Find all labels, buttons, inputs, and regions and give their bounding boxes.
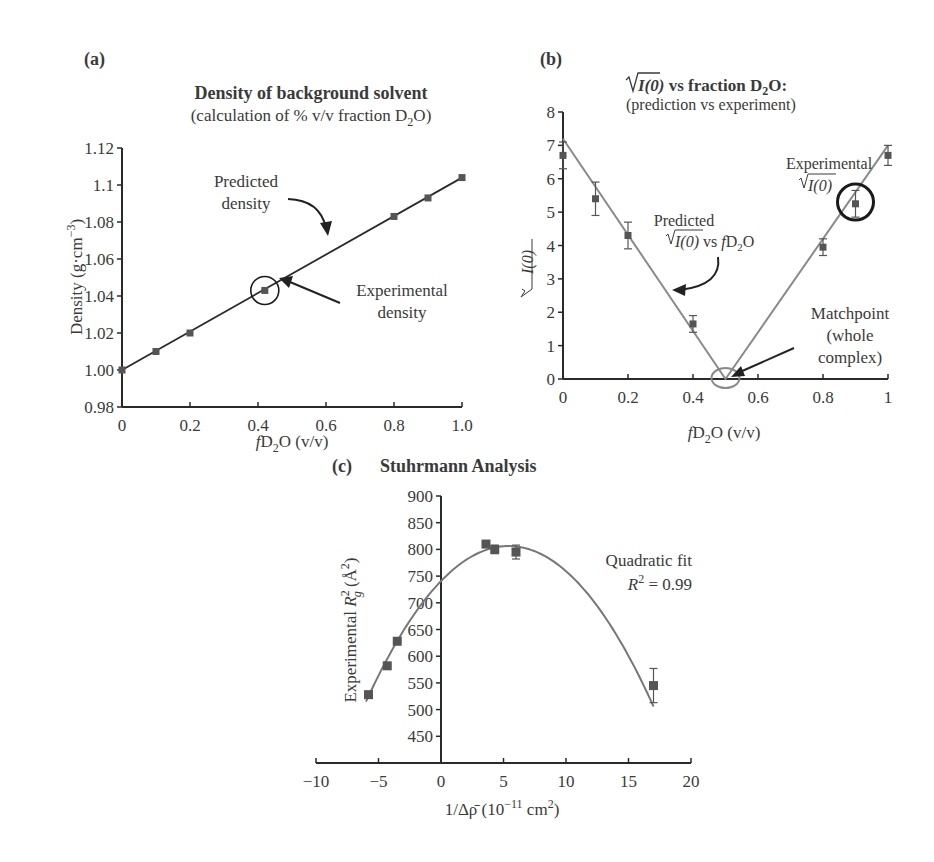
panel-b-x-axis-label: fD2O (v/v) — [688, 423, 761, 446]
panel-b-y-axis-label: I(0) — [519, 239, 537, 297]
svg-text:Predicted: Predicted — [654, 212, 714, 229]
panel-c-x-axis-label: 1/Δρ̄ (10−11 cm2) — [445, 797, 560, 819]
data-point-marker — [391, 213, 398, 220]
data-point-marker — [649, 681, 658, 690]
svg-text:I(0) vs fD2O: I(0) vs fD2O — [674, 233, 754, 253]
x-tick-label: 0.8 — [383, 416, 404, 435]
panel-b-subtitle: (prediction vs experiment) — [626, 96, 796, 114]
x-tick-label: 0 — [559, 388, 568, 407]
data-point-marker — [690, 320, 697, 327]
annotation-experimental-sqrt-i0: Experimental I(0) — [786, 155, 873, 195]
data-point-marker — [459, 174, 466, 181]
data-point-marker — [187, 330, 194, 337]
y-tick-label: 0 — [547, 370, 556, 389]
annotation-predicted-density: Predicteddensity — [214, 172, 279, 213]
x-tick-label: 0.4 — [682, 388, 704, 407]
y-tick-label: 500 — [408, 701, 434, 720]
y-tick-label: 1.06 — [84, 250, 114, 269]
y-tick-label: 6 — [547, 170, 556, 189]
panel-a-title: Density of background solvent — [194, 83, 427, 103]
data-point-marker — [820, 244, 827, 251]
y-tick-label: 1.1 — [93, 176, 114, 195]
x-tick-label: 0.8 — [812, 388, 833, 407]
annotation-predicted-sqrt-i0: Predicted I(0) vs fD2O — [654, 212, 755, 253]
y-tick-label: 1.00 — [84, 361, 114, 380]
curved-arrow-icon — [288, 199, 326, 228]
data-point-marker — [852, 200, 859, 207]
svg-text:I(0) vs fraction D2O:: I(0) vs fraction D2O: — [637, 76, 787, 98]
y-tick-label: 1.04 — [84, 287, 114, 306]
arrow-line-icon — [290, 282, 340, 303]
annotation-experimental-density: Experimentaldensity — [356, 281, 448, 322]
x-tick-label: 0 — [118, 416, 127, 435]
y-tick-label: 550 — [408, 674, 434, 693]
data-point-marker — [383, 661, 392, 670]
y-tick-label: 800 — [408, 540, 434, 559]
panel-a-subtitle: (calculation of % v/v fraction D2O) — [191, 106, 432, 129]
figure: (a) Density of background solvent (calcu… — [0, 0, 934, 862]
x-tick-label: 5 — [499, 772, 508, 791]
annotation-r-squared: R2 = 0.99 — [627, 572, 692, 594]
panel-c-axes: −10−505101520450500550600650700750800850… — [303, 487, 700, 791]
data-point-marker — [261, 287, 268, 294]
arrowhead-icon — [320, 221, 332, 236]
y-tick-label: 5 — [547, 203, 556, 222]
panel-a-plot-area — [119, 174, 466, 373]
data-point-marker — [425, 194, 432, 201]
panel-b-label: (b) — [540, 49, 562, 70]
x-tick-label: 20 — [683, 772, 700, 791]
y-tick-label: 2 — [547, 303, 556, 322]
arrow-line-icon — [740, 348, 794, 372]
panel-a-label: (a) — [84, 49, 105, 70]
panel-b-title: I(0) vs fraction D2O: — [626, 73, 787, 98]
data-point-marker — [625, 232, 632, 239]
arrowhead-icon — [672, 284, 686, 296]
data-point-marker — [885, 152, 892, 159]
panel-a-x-axis-label: fD2O (v/v) — [256, 432, 329, 455]
x-tick-label: −10 — [303, 772, 330, 791]
data-point-marker — [364, 690, 373, 699]
y-tick-label: 650 — [408, 621, 434, 640]
y-tick-label: 7 — [547, 136, 556, 155]
panel-c-label: (c) — [332, 456, 352, 477]
svg-text:I(0): I(0) — [807, 177, 832, 195]
x-tick-label: 0.2 — [179, 416, 200, 435]
panel-a-y-axis-label: Density (g·cm−3) — [64, 219, 86, 335]
x-tick-label: 0 — [437, 772, 446, 791]
panel-b-intensity-chart: (b) I(0) vs fraction D2O: (prediction vs… — [519, 49, 892, 446]
y-tick-label: 1 — [547, 337, 556, 356]
y-tick-label: 750 — [408, 567, 434, 586]
svg-text:Experimental: Experimental — [786, 155, 873, 173]
y-tick-label: 1.12 — [84, 139, 114, 158]
data-point-marker — [119, 367, 126, 374]
annotation-matchpoint: Matchpoint(wholecomplex) — [811, 304, 890, 367]
data-point-marker — [482, 540, 491, 549]
y-tick-label: 3 — [547, 270, 556, 289]
x-tick-label: 0.6 — [747, 388, 768, 407]
data-point-marker — [512, 548, 521, 557]
panel-c-y-axis-label: Experimental R2g (Å2) — [338, 557, 364, 702]
fit-line — [122, 178, 462, 370]
y-tick-label: 4 — [547, 237, 556, 256]
data-point-marker — [490, 545, 499, 554]
y-tick-label: 0.98 — [84, 398, 114, 417]
data-point-marker — [560, 152, 567, 159]
y-tick-label: 850 — [408, 514, 434, 533]
y-tick-label: 900 — [408, 487, 434, 506]
svg-text:I(0): I(0) — [519, 250, 537, 275]
data-point-marker — [153, 348, 160, 355]
annotation-quadratic-fit: Quadratic fit — [606, 551, 693, 570]
x-tick-label: −5 — [369, 772, 387, 791]
y-tick-label: 8 — [547, 103, 556, 122]
x-tick-label: 1 — [884, 388, 893, 407]
x-tick-label: 15 — [620, 772, 637, 791]
x-tick-label: 10 — [558, 772, 575, 791]
x-tick-label: 0.2 — [617, 388, 638, 407]
y-tick-label: 450 — [408, 727, 434, 746]
y-tick-label: 1.08 — [84, 213, 114, 232]
data-point-marker — [393, 637, 402, 646]
y-tick-label: 1.02 — [84, 324, 114, 343]
panel-c-title: Stuhrmann Analysis — [380, 456, 537, 476]
arrowhead-icon — [279, 276, 293, 288]
panel-c-stuhrmann-chart: (c) Stuhrmann Analysis −10−5051015204505… — [303, 456, 700, 819]
